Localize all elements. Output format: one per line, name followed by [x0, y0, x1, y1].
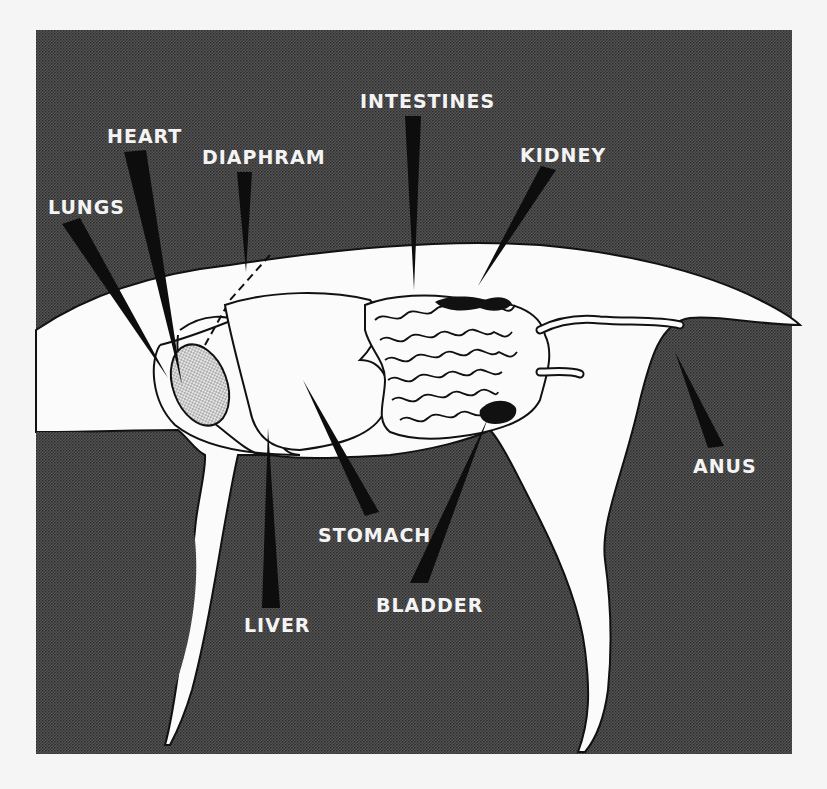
anatomy-diagram — [0, 0, 827, 789]
label-diaphram: DIAPHRAM — [202, 145, 326, 168]
label-intestines: INTESTINES — [360, 89, 495, 112]
label-anus: ANUS — [693, 454, 757, 477]
label-liver: LIVER — [244, 613, 311, 636]
diagram-canvas: LUNGS HEART DIAPHRAM INTESTINES KIDNEY A… — [0, 0, 827, 789]
label-heart: HEART — [107, 124, 182, 147]
label-kidney: KIDNEY — [520, 143, 606, 166]
label-bladder: BLADDER — [376, 593, 483, 616]
kidney-shape — [435, 297, 512, 311]
label-lungs: LUNGS — [48, 195, 125, 218]
label-stomach: STOMACH — [318, 523, 431, 546]
